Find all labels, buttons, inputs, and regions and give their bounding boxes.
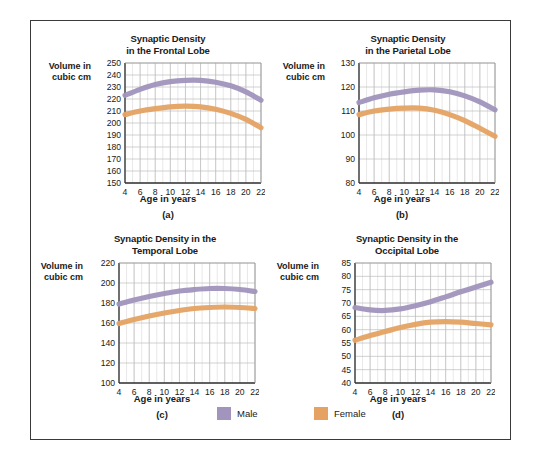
y-tick-label: 170 xyxy=(107,154,122,164)
y-tick-label: 75 xyxy=(341,285,351,295)
panel-c-svg: 10012014016018020022046810121416182022 xyxy=(91,259,259,407)
legend-female-label: Female xyxy=(334,408,366,419)
y-tick-label: 160 xyxy=(107,166,122,176)
legend-female: Female xyxy=(314,407,366,420)
y-tick-label: 190 xyxy=(107,130,122,140)
y-tick-label: 50 xyxy=(341,351,351,361)
panel-d-title-line1: Synaptic Density in the xyxy=(356,233,458,244)
y-tick-label: 150 xyxy=(107,178,122,188)
panel-c-title-line2: Temporal Lobe xyxy=(132,245,198,256)
y-tick-label: 210 xyxy=(107,106,122,116)
panel-b-letter: (b) xyxy=(331,209,473,220)
panel-c-y-axis-label: Volume in cubic cm xyxy=(21,261,83,283)
x-tick-label: 20 xyxy=(475,187,485,197)
y-tick-label: 180 xyxy=(107,142,122,152)
panel-d-title: Synaptic Density in the Occipital Lobe xyxy=(307,233,507,257)
y-tick-label: 100 xyxy=(341,130,356,140)
y-tick-label: 230 xyxy=(107,82,122,92)
legend-male-swatch xyxy=(217,407,231,420)
panel-a-title: Synaptic Density in the Frontal Lobe xyxy=(73,33,263,57)
y-tick-label: 220 xyxy=(101,259,116,268)
y-tick-label: 55 xyxy=(341,338,351,348)
y-tick-label: 140 xyxy=(101,338,116,348)
y-tick-label: 240 xyxy=(107,70,122,80)
y-tick-label: 120 xyxy=(341,82,356,92)
x-tick-label: 22 xyxy=(256,187,265,197)
y-tick-label: 90 xyxy=(345,154,355,164)
panel-parietal-lobe: Synaptic Density in the Parietal Lobe Vo… xyxy=(271,21,511,231)
legend-male-label: Male xyxy=(237,408,258,419)
y-tick-label: 100 xyxy=(101,378,116,388)
panel-b-title-line2: in the Parietal Lobe xyxy=(365,45,451,56)
y-tick-label: 70 xyxy=(341,298,351,308)
y-tick-label: 45 xyxy=(341,365,351,375)
panel-c-x-axis-label: Age in years xyxy=(91,393,233,404)
y-tick-label: 110 xyxy=(341,106,355,116)
y-tick-label: 250 xyxy=(107,59,122,68)
panel-a-plot: 1501601701801902002102202302402504681012… xyxy=(97,59,265,211)
panel-d-title-line2: Occipital Lobe xyxy=(375,245,439,256)
y-tick-label: 60 xyxy=(341,325,351,335)
x-tick-label: 20 xyxy=(241,187,251,197)
panel-a-title-line1: Synaptic Density xyxy=(131,33,206,44)
panel-occipital-lobe: Synaptic Density in the Occipital Lobe V… xyxy=(271,227,511,437)
y-tick-label: 80 xyxy=(341,271,351,281)
panel-a-y-axis-label: Volume in cubic cm xyxy=(29,61,91,83)
figure-frame: Synaptic Density in the Frontal Lobe Vol… xyxy=(30,20,511,440)
y-tick-label: 200 xyxy=(101,278,116,288)
x-tick-label: 22 xyxy=(250,387,259,397)
panel-b-x-axis-label: Age in years xyxy=(331,193,473,204)
x-tick-label: 22 xyxy=(490,187,499,197)
y-tick-label: 220 xyxy=(107,94,122,104)
y-tick-label: 120 xyxy=(101,358,116,368)
legend-female-swatch xyxy=(314,407,328,420)
y-tick-label: 160 xyxy=(101,318,116,328)
y-tick-label: 180 xyxy=(101,298,116,308)
panel-b-title-line1: Synaptic Density xyxy=(371,33,446,44)
panel-temporal-lobe: Synaptic Density in the Temporal Lobe Vo… xyxy=(31,227,271,437)
y-tick-label: 85 xyxy=(341,259,351,268)
x-tick-label: 20 xyxy=(471,387,481,397)
x-tick-label: 20 xyxy=(235,387,245,397)
y-tick-label: 200 xyxy=(107,118,122,128)
y-tick-label: 40 xyxy=(341,378,351,388)
y-tick-label: 65 xyxy=(341,311,351,321)
x-tick-label: 22 xyxy=(486,387,495,397)
panel-a-title-line2: in the Frontal Lobe xyxy=(126,45,210,56)
panel-b-title: Synaptic Density in the Parietal Lobe xyxy=(311,33,505,57)
y-tick-label: 80 xyxy=(345,178,355,188)
panel-frontal-lobe: Synaptic Density in the Frontal Lobe Vol… xyxy=(31,21,271,231)
legend-male: Male xyxy=(217,407,258,420)
panel-d-plot: 4045505560657075808546810121416182022 xyxy=(327,259,495,411)
panel-a-letter: (a) xyxy=(97,209,239,220)
panel-a-svg: 1501601701801902002102202302402504681012… xyxy=(97,59,265,207)
panel-b-svg: 809010011012013046810121416182022 xyxy=(331,59,499,207)
panel-d-x-axis-label: Age in years xyxy=(327,393,469,404)
panel-b-plot: 809010011012013046810121416182022 xyxy=(331,59,499,211)
panel-b-y-axis-label: Volume in cubic cm xyxy=(263,61,325,83)
panel-a-x-axis-label: Age in years xyxy=(97,193,239,204)
panel-d-y-axis-label: Volume in cubic cm xyxy=(257,261,319,283)
panel-c-title: Synaptic Density in the Temporal Lobe xyxy=(65,233,265,257)
y-tick-label: 130 xyxy=(341,59,356,68)
panel-d-svg: 4045505560657075808546810121416182022 xyxy=(327,259,495,407)
panel-c-title-line1: Synaptic Density in the xyxy=(114,233,216,244)
panel-c-letter: (c) xyxy=(91,409,233,420)
panel-c-plot: 10012014016018020022046810121416182022 xyxy=(91,259,259,411)
